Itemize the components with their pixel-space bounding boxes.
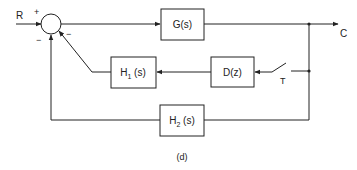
block-h2: H2 (s) xyxy=(160,105,204,136)
block-d: D(z) xyxy=(211,57,254,87)
output-label: C xyxy=(340,28,347,39)
caption: (d) xyxy=(177,152,188,162)
svg-text:D(z): D(z) xyxy=(223,67,242,78)
block-h1: H1 (s) xyxy=(111,57,156,88)
input-label: R xyxy=(16,10,23,21)
block-diagram: R + − − G(s) C T D(z) H1 (s) xyxy=(0,0,357,170)
minus-sign-left: − xyxy=(36,35,41,45)
plus-sign: + xyxy=(34,7,39,17)
svg-text:G(s): G(s) xyxy=(173,19,192,30)
sampler-switch: T xyxy=(272,63,309,86)
minus-sign-right: − xyxy=(66,29,71,39)
sampler-label: T xyxy=(280,76,286,86)
block-g: G(s) xyxy=(161,9,204,40)
